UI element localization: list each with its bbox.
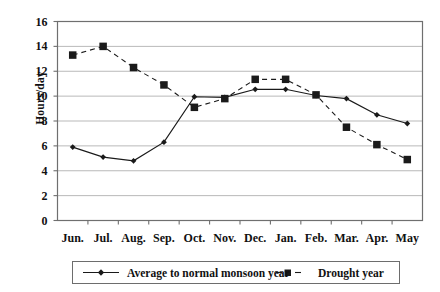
legend-item-drought-year: Drought year [318, 266, 384, 280]
plot-area [0, 0, 440, 292]
data-point-marker [404, 156, 412, 164]
series-2 [69, 43, 411, 164]
y-axis-tick-label: 16 [22, 16, 48, 28]
y-axis-tick-label: 0 [22, 215, 48, 227]
series-line [73, 89, 408, 161]
series-1 [70, 86, 410, 163]
data-point-marker [160, 81, 168, 89]
series-line [73, 46, 408, 159]
legend: Average to normal monsoon year Drought y… [72, 261, 400, 284]
data-point-marker [99, 43, 107, 51]
y-axis-tick-label: 14 [22, 40, 48, 52]
data-point-marker [374, 112, 380, 118]
data-point-marker [191, 104, 199, 112]
y-axis-tick-label: 8 [22, 115, 48, 127]
data-point-marker [283, 86, 289, 92]
data-point-marker [251, 76, 259, 84]
data-point-marker [130, 64, 138, 72]
data-point-marker [131, 158, 137, 164]
y-axis-tick-label: 12 [22, 65, 48, 77]
legend-item-average-to-normal-monsoon-year: Average to normal monsoon year [127, 266, 290, 280]
x-axis-ticks [88, 221, 392, 225]
data-point-marker [252, 86, 258, 92]
y-axis-tick-label: 6 [22, 140, 48, 152]
data-point-marker [312, 91, 320, 99]
data-point-marker [70, 144, 76, 150]
data-point-marker [343, 123, 351, 131]
data-point-marker [221, 95, 229, 103]
data-point-marker [282, 76, 290, 84]
data-point-marker [69, 51, 77, 59]
y-axis-tick-label: 4 [22, 165, 48, 177]
y-axis-tick-label: 2 [22, 190, 48, 202]
gridlines [58, 22, 423, 196]
y-axis-tick-label: 10 [22, 90, 48, 102]
data-point-marker [100, 154, 106, 160]
chart-figure: Hours/day 1614121086420 Jun.Jul.Aug.Sep.… [0, 0, 440, 292]
x-axis-tick-label: May [383, 232, 431, 244]
data-point-marker [373, 141, 381, 149]
